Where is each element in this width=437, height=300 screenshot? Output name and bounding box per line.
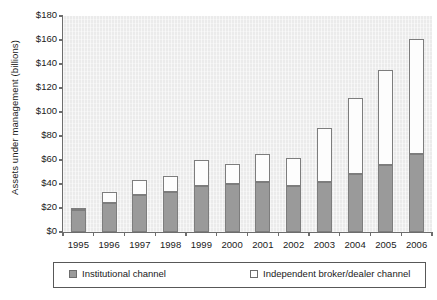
- x-tick-mark: [155, 232, 156, 236]
- bar-segment-institutional: [348, 174, 363, 232]
- bar-segment-independent: [348, 98, 363, 175]
- y-tick-label: $80: [41, 129, 57, 140]
- bar-1996: [102, 192, 117, 232]
- y-tick-mark: [59, 63, 63, 64]
- chart-figure: Assets under management (billions) $0$20…: [0, 0, 437, 300]
- legend-swatch-institutional-icon: [69, 270, 77, 278]
- bar-2004: [348, 98, 363, 232]
- bar-segment-institutional: [378, 165, 393, 232]
- x-tick-mark: [308, 232, 309, 236]
- bar-1998: [163, 176, 178, 232]
- bar-segment-independent: [255, 154, 270, 182]
- y-tick-mark: [59, 207, 63, 208]
- y-tick-label: $60: [41, 153, 57, 164]
- x-tick-mark: [124, 232, 125, 236]
- bar-segment-independent: [286, 158, 301, 187]
- bar-segment-independent: [225, 164, 240, 184]
- x-tick-mark: [62, 232, 63, 236]
- legend-swatch-independent-icon: [250, 270, 258, 278]
- bar-segment-institutional: [102, 203, 117, 232]
- bar-2001: [255, 154, 270, 232]
- y-tick-mark: [59, 15, 63, 16]
- bar-1995: [71, 208, 86, 232]
- y-tick-mark: [59, 39, 63, 40]
- y-axis-title: Assets under management (billions): [9, 18, 20, 218]
- bar-2002: [286, 158, 301, 232]
- x-tick-mark: [247, 232, 248, 236]
- y-tick-label: $120: [36, 81, 57, 92]
- legend-label-institutional: Institutional channel: [82, 268, 166, 279]
- bar-segment-independent: [163, 176, 178, 193]
- bar-segment-independent: [194, 160, 209, 186]
- bar-1997: [132, 180, 147, 232]
- bar-segment-institutional: [255, 182, 270, 232]
- bar-2000: [225, 164, 240, 232]
- bar-segment-independent: [102, 192, 117, 203]
- x-tick-mark: [216, 232, 217, 236]
- x-tick-mark: [185, 232, 186, 236]
- y-tick-mark: [59, 159, 63, 160]
- bar-2003: [317, 128, 332, 232]
- bar-segment-institutional: [71, 210, 86, 232]
- legend-label-independent: Independent broker/dealer channel: [263, 268, 410, 279]
- bar-segment-institutional: [317, 182, 332, 232]
- y-tick-mark: [59, 183, 63, 184]
- bar-segment-independent: [132, 180, 147, 194]
- plot-area: $0$20$40$60$80$100$120$140$160$180 19951…: [62, 16, 432, 233]
- bar-segment-independent: [378, 70, 393, 165]
- bar-segment-institutional: [194, 186, 209, 232]
- bar-segment-independent: [317, 128, 332, 182]
- bar-2005: [378, 70, 393, 232]
- x-tick-label: 2006: [395, 239, 437, 250]
- bar-1999: [194, 160, 209, 232]
- bar-segment-institutional: [286, 186, 301, 232]
- bar-segment-institutional: [163, 192, 178, 232]
- y-tick-label: $140: [36, 57, 57, 68]
- y-tick-label: $0: [46, 225, 57, 236]
- x-tick-mark: [278, 232, 279, 236]
- y-tick-mark: [59, 87, 63, 88]
- bar-2006: [409, 39, 424, 232]
- bar-segment-independent: [409, 39, 424, 154]
- legend-item-independent: Independent broker/dealer channel: [250, 268, 410, 279]
- y-tick-label: $100: [36, 105, 57, 116]
- legend-item-institutional: Institutional channel: [69, 268, 166, 279]
- chart-legend: Institutional channel Independent broker…: [53, 262, 426, 288]
- bar-segment-institutional: [409, 154, 424, 232]
- x-tick-mark: [93, 232, 94, 236]
- bar-segment-institutional: [225, 184, 240, 232]
- y-tick-label: $160: [36, 33, 57, 44]
- x-tick-mark: [431, 232, 432, 236]
- y-tick-mark: [59, 135, 63, 136]
- plot-background-texture: [63, 16, 432, 232]
- y-tick-mark: [59, 111, 63, 112]
- y-tick-label: $20: [41, 201, 57, 212]
- x-tick-mark: [339, 232, 340, 236]
- x-tick-mark: [370, 232, 371, 236]
- y-tick-label: $180: [36, 9, 57, 20]
- bar-segment-institutional: [132, 195, 147, 232]
- x-tick-mark: [401, 232, 402, 236]
- y-tick-label: $40: [41, 177, 57, 188]
